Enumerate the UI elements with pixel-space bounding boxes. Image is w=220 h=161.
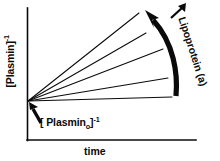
fan-lines-group: [28, 13, 172, 101]
y-axis-label: [Plasmin]-1: [5, 29, 16, 93]
curved-arrow-shaft: [153, 20, 176, 96]
y-axis-label-exponent: -1: [2, 35, 11, 41]
fan-line-3: [28, 49, 163, 101]
fan-line-5-highest-lpa: [28, 13, 139, 101]
y-axis-label-text: [Plasmin]: [4, 41, 16, 87]
intercept-annotation-label: [ Plasmino]-1: [40, 117, 100, 128]
figure-container: [Plasmin]-1 time [ Plasmino]-1 Lipoprote…: [0, 0, 220, 161]
x-axis-label: time: [84, 146, 106, 157]
intercept-label-exponent: -1: [93, 115, 99, 124]
intercept-label-prefix: [ Plasmin: [40, 116, 86, 128]
lipoprotein-trend-arrow: [145, 10, 176, 96]
